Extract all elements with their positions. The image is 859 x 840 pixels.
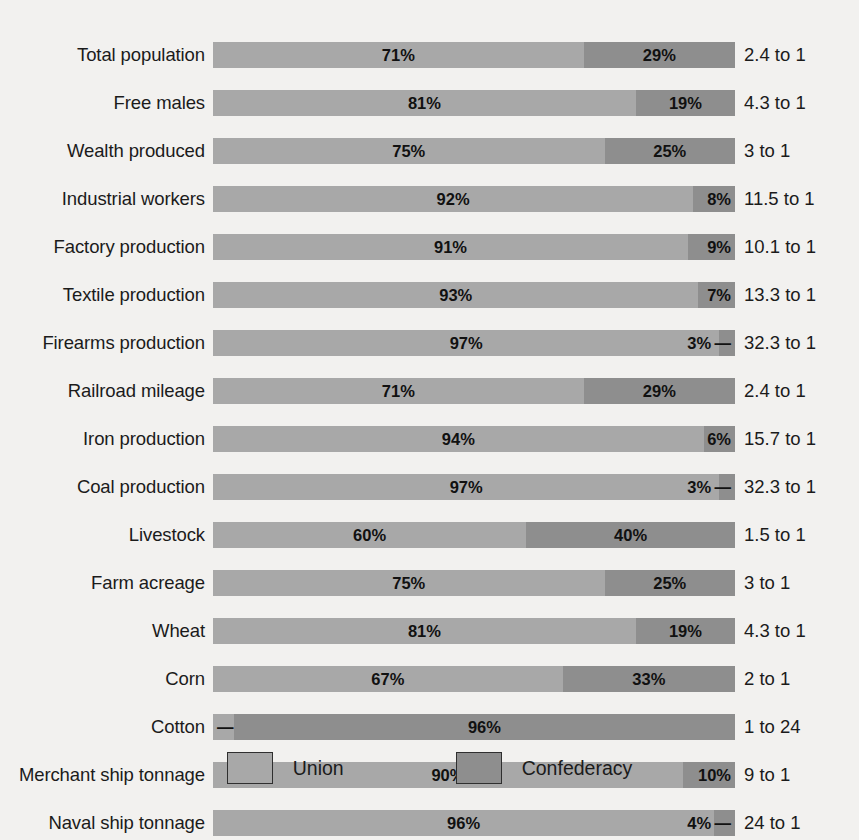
chart-row: Coal production97%3% —32.3 to 1 <box>0 463 859 511</box>
row-label: Cotton <box>0 716 213 738</box>
row-label: Factory production <box>0 236 213 258</box>
bar-track: 93%7% <box>213 282 735 308</box>
bar-track: 81%19% <box>213 618 735 644</box>
row-ratio: 10.1 to 1 <box>735 236 859 258</box>
bar-value-confederacy: 25% <box>653 138 686 164</box>
row-ratio: 13.3 to 1 <box>735 284 859 306</box>
chart-row: Cotton— 4%96%1 to 24 <box>0 703 859 751</box>
bar-value-confederacy: 40% <box>614 522 647 548</box>
bar-segment-union: 97% <box>213 474 719 500</box>
bar-segment-confederacy: 3% — <box>719 474 735 500</box>
legend-swatch <box>456 752 502 784</box>
chart-legend: UnionConfederacy <box>0 752 859 784</box>
bar-track: 60%40% <box>213 522 735 548</box>
row-ratio: 15.7 to 1 <box>735 428 859 450</box>
row-label: Iron production <box>0 428 213 450</box>
chart-row: Industrial workers92%8%11.5 to 1 <box>0 175 859 223</box>
bar-segment-confederacy: 25% <box>605 138 736 164</box>
bar-value-confederacy: 7% <box>707 282 731 308</box>
chart-row: Livestock60%40%1.5 to 1 <box>0 511 859 559</box>
row-ratio: 24 to 1 <box>735 812 859 834</box>
row-ratio: 1.5 to 1 <box>735 524 859 546</box>
bar-value-union: 81% <box>408 618 441 644</box>
row-label: Railroad mileage <box>0 380 213 402</box>
bar-segment-union: 67% <box>213 666 563 692</box>
row-ratio: 3 to 1 <box>735 572 859 594</box>
row-ratio: 2.4 to 1 <box>735 44 859 66</box>
chart-row: Farm acreage75%25%3 to 1 <box>0 559 859 607</box>
legend-swatch <box>227 752 273 784</box>
chart-row: Naval ship tonnage96%4% —24 to 1 <box>0 799 859 840</box>
row-label: Naval ship tonnage <box>0 812 213 834</box>
bar-track: 92%8% <box>213 186 735 212</box>
bar-value-confederacy: 8% <box>707 186 731 212</box>
row-ratio: 3 to 1 <box>735 140 859 162</box>
row-ratio: 2 to 1 <box>735 668 859 690</box>
bar-segment-confederacy: 3% — <box>719 330 735 356</box>
bar-segment-union: 93% <box>213 282 698 308</box>
row-label: Livestock <box>0 524 213 546</box>
legend-label: Union <box>293 757 344 780</box>
bar-value-confederacy: 29% <box>643 42 676 68</box>
chart-rows: Total population71%29%2.4 to 1Free males… <box>0 31 859 840</box>
bar-value-confederacy: 4% — <box>687 810 731 836</box>
bar-value-union: 97% <box>450 474 483 500</box>
chart-row: Iron production94%6%15.7 to 1 <box>0 415 859 463</box>
bar-segment-union: 97% <box>213 330 719 356</box>
legend-item: Union <box>227 752 344 784</box>
bar-track: 71%29% <box>213 42 735 68</box>
bar-track: 67%33% <box>213 666 735 692</box>
chart-row: Corn67%33%2 to 1 <box>0 655 859 703</box>
bar-value-union: 60% <box>353 522 386 548</box>
bar-segment-confederacy: 19% <box>636 90 735 116</box>
bar-value-confederacy: 29% <box>643 378 676 404</box>
bar-segment-union: 81% <box>213 90 636 116</box>
bar-segment-confederacy: 19% <box>636 618 735 644</box>
bar-segment-confederacy: 25% <box>605 570 736 596</box>
row-ratio: 11.5 to 1 <box>735 188 859 210</box>
chart-row: Wheat81%19%4.3 to 1 <box>0 607 859 655</box>
chart-row: Wealth produced75%25%3 to 1 <box>0 127 859 175</box>
bar-value-confederacy: 3% — <box>687 330 731 356</box>
bar-value-union: 91% <box>434 234 467 260</box>
bar-value-union: 71% <box>382 42 415 68</box>
row-label: Firearms production <box>0 332 213 354</box>
bar-segment-union: 71% <box>213 42 584 68</box>
row-label: Corn <box>0 668 213 690</box>
bar-track: 75%25% <box>213 570 735 596</box>
row-ratio: 1 to 24 <box>735 716 859 738</box>
bar-segment-confederacy: 29% <box>584 42 735 68</box>
bar-segment-union: — 4% <box>213 714 234 740</box>
bar-segment-confederacy: 9% <box>688 234 735 260</box>
bar-track: 94%6% <box>213 426 735 452</box>
bar-track: 81%19% <box>213 90 735 116</box>
chart-row: Firearms production97%3% —32.3 to 1 <box>0 319 859 367</box>
bar-track: 97%3% — <box>213 330 735 356</box>
bar-value-confederacy: 3% — <box>687 474 731 500</box>
bar-segment-confederacy: 6% <box>704 426 735 452</box>
bar-value-union: 71% <box>382 378 415 404</box>
bar-value-union: 96% <box>447 810 480 836</box>
row-ratio: 2.4 to 1 <box>735 380 859 402</box>
bar-track: 71%29% <box>213 378 735 404</box>
chart-row: Textile production93%7%13.3 to 1 <box>0 271 859 319</box>
bar-track: 96%4% — <box>213 810 735 836</box>
row-label: Coal production <box>0 476 213 498</box>
row-label: Textile production <box>0 284 213 306</box>
bar-segment-confederacy: 96% <box>234 714 735 740</box>
bar-segment-confederacy: 8% <box>693 186 735 212</box>
bar-track: 75%25% <box>213 138 735 164</box>
bar-segment-union: 75% <box>213 570 605 596</box>
row-ratio: 4.3 to 1 <box>735 620 859 642</box>
bar-value-confederacy: 33% <box>632 666 665 692</box>
bar-track: — 4%96% <box>213 714 735 740</box>
row-label: Total population <box>0 44 213 66</box>
row-label: Industrial workers <box>0 188 213 210</box>
bar-value-confederacy: 96% <box>468 714 501 740</box>
bar-segment-confederacy: 40% <box>526 522 735 548</box>
bar-value-union: 92% <box>437 186 470 212</box>
bar-value-union: 97% <box>450 330 483 356</box>
row-ratio: 32.3 to 1 <box>735 476 859 498</box>
bar-segment-confederacy: 29% <box>584 378 735 404</box>
bar-value-confederacy: 19% <box>669 90 702 116</box>
